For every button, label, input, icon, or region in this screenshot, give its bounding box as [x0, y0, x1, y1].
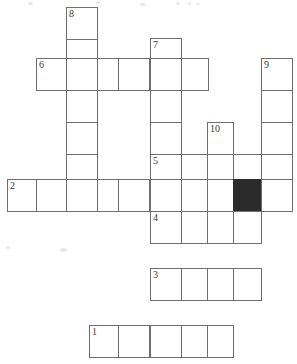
- crossword-cell[interactable]: [150, 325, 182, 358]
- crossword-cell[interactable]: 1: [89, 325, 119, 358]
- scan-speck: [28, 2, 33, 5]
- crossword-cell[interactable]: [66, 90, 98, 123]
- clue-number-2: 2: [10, 180, 15, 192]
- crossword-cell[interactable]: [66, 179, 98, 212]
- crossword-cell[interactable]: 4: [150, 211, 182, 244]
- crossword-cell[interactable]: [261, 122, 293, 155]
- scan-speck: [96, 1, 100, 4]
- crossword-cell[interactable]: [233, 268, 262, 301]
- clue-number-9: 9: [264, 59, 269, 71]
- crossword-cell[interactable]: [66, 58, 98, 91]
- crossword-cell[interactable]: [181, 325, 208, 358]
- scan-speck: [196, 3, 200, 5]
- crossword-blocked-cell: [233, 179, 262, 212]
- crossword-cell[interactable]: [181, 268, 208, 301]
- scan-speck: [6, 246, 10, 249]
- clue-number-4: 4: [153, 212, 158, 224]
- scan-speck: [176, 2, 180, 5]
- crossword-cell[interactable]: [181, 58, 209, 91]
- crossword-grid: 87691052431: [0, 0, 297, 364]
- scan-speck: [60, 248, 67, 252]
- clue-number-5: 5: [153, 155, 158, 167]
- crossword-cell[interactable]: [118, 325, 150, 358]
- crossword-cell[interactable]: [150, 58, 182, 91]
- clue-number-3: 3: [153, 269, 158, 281]
- crossword-cell[interactable]: [150, 90, 182, 123]
- crossword-cell[interactable]: [36, 179, 67, 212]
- crossword-cell[interactable]: 9: [261, 58, 293, 91]
- crossword-cell[interactable]: [261, 179, 293, 212]
- scan-speck: [188, 2, 191, 5]
- crossword-cell[interactable]: [181, 179, 208, 212]
- crossword-cell[interactable]: 3: [150, 268, 182, 301]
- crossword-cell[interactable]: 8: [66, 7, 98, 40]
- clue-number-7: 7: [153, 39, 158, 51]
- crossword-cell[interactable]: [150, 122, 182, 155]
- scan-speck: [140, 3, 146, 6]
- clue-number-1: 1: [92, 326, 97, 338]
- crossword-cell[interactable]: [207, 268, 234, 301]
- crossword-cell[interactable]: [66, 122, 98, 155]
- crossword-cell[interactable]: [150, 179, 182, 212]
- crossword-cell[interactable]: [207, 325, 234, 358]
- crossword-cell[interactable]: [181, 211, 208, 244]
- crossword-cell[interactable]: 2: [7, 179, 38, 212]
- clue-number-8: 8: [69, 8, 74, 20]
- crossword-cell[interactable]: 10: [207, 122, 234, 155]
- crossword-cell[interactable]: [261, 90, 293, 123]
- crossword-cell[interactable]: [118, 58, 150, 91]
- crossword-cell[interactable]: [207, 211, 234, 244]
- clue-number-10: 10: [210, 123, 220, 135]
- clue-number-6: 6: [39, 59, 44, 71]
- crossword-cell[interactable]: [207, 179, 234, 212]
- crossword-cell[interactable]: [233, 211, 262, 244]
- crossword-cell[interactable]: [118, 179, 150, 212]
- crossword-cell[interactable]: 6: [36, 58, 67, 91]
